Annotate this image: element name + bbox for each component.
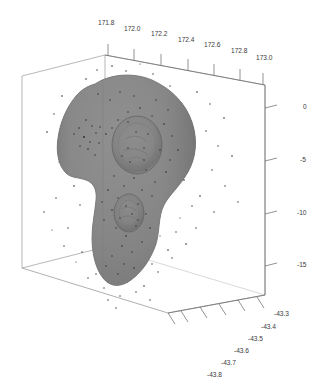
bottom-tick-label: -43.6 — [234, 347, 249, 354]
right-axis-tick-labels: 0 -5 -10 -15 — [297, 103, 307, 268]
bottom-tick-label: -43.3 — [274, 310, 289, 317]
top-tick-label: 172.4 — [178, 36, 195, 43]
bottom-tick-label: -43.8 — [207, 371, 222, 378]
right-axis — [265, 85, 277, 295]
crater-upper — [112, 116, 162, 174]
top-tick-label: 172.0 — [124, 25, 141, 32]
right-tick-label: -5 — [300, 156, 306, 163]
crater-lower — [114, 194, 144, 232]
top-tick-label: 172.8 — [231, 47, 248, 54]
right-tick-label: -10 — [297, 209, 307, 216]
bottom-tick-label: -43.7 — [221, 359, 236, 366]
bottom-axis — [168, 295, 265, 324]
right-tick-label: -15 — [297, 261, 307, 268]
bottom-tick-label: -43.5 — [248, 335, 263, 342]
top-tick-label: 173.0 — [256, 54, 273, 61]
top-tick-label: 172.6 — [204, 41, 221, 48]
top-axis-tick-labels: 171.8 172.0 172.2 172.4 172.6 172.8 173.… — [98, 19, 273, 61]
bottom-axis-tick-labels: -43.3 -43.4 -43.5 -43.6 -43.7 -43.8 — [207, 310, 289, 378]
plot-canvas: 171.8 172.0 172.2 172.4 172.6 172.8 173.… — [0, 0, 326, 387]
bottom-tick-label: -43.4 — [261, 323, 276, 330]
top-tick-label: 172.2 — [151, 30, 168, 37]
top-tick-label: 171.8 — [98, 19, 115, 26]
isosurface-plot-figure: 171.8 172.0 172.2 172.4 172.6 172.8 173.… — [0, 0, 326, 387]
right-tick-label: 0 — [303, 103, 307, 110]
